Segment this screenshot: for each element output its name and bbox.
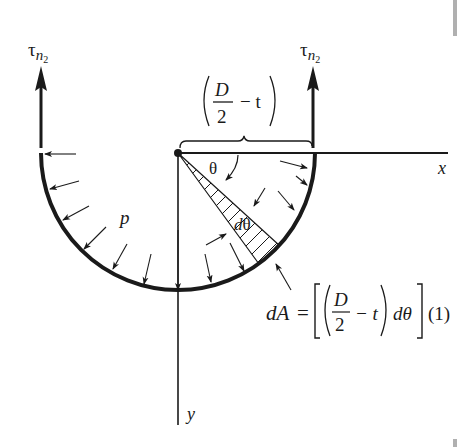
svg-text:D: D: [333, 289, 348, 310]
dtheta-arrow-top: [254, 188, 265, 206]
dtheta-label: dθ: [234, 215, 251, 234]
svg-text:D: D: [214, 79, 229, 100]
x-axis-label: x: [437, 158, 446, 178]
tau-arrow-left: [35, 66, 47, 148]
svg-text:=: =: [297, 301, 309, 325]
svg-text:2: 2: [217, 106, 227, 127]
svg-text:(1): (1): [428, 303, 450, 325]
svg-text:− t: − t: [355, 303, 379, 324]
y-axis-label: y: [185, 404, 195, 424]
dA-equation: dA = D 2 − t dθ (1): [266, 284, 450, 338]
tau-label-right: τn2: [300, 39, 320, 65]
tau-arrow-right: [307, 66, 319, 148]
radius-label: D 2 − t: [204, 76, 275, 127]
theta-arc: [226, 155, 238, 180]
svg-text:dA: dA: [266, 301, 290, 325]
dtheta-arrow-bottom: [206, 234, 226, 245]
theta-label: θ: [209, 159, 217, 178]
pressure-label: p: [118, 207, 130, 228]
dA-leader-arrow: [276, 264, 291, 290]
half-cylinder-diagram: τn2 τn2 x y D 2 − t: [0, 0, 476, 447]
radius-brace: [180, 136, 312, 148]
scrollbar-top[interactable]: [453, 0, 457, 36]
tau-label-left: τn2: [28, 39, 48, 65]
svg-text:dθ: dθ: [393, 303, 412, 324]
pressure-arrows: [45, 154, 307, 290]
svg-text:− t: − t: [240, 91, 261, 112]
scrollbar-bottom[interactable]: [453, 439, 457, 447]
svg-text:2: 2: [335, 314, 345, 335]
